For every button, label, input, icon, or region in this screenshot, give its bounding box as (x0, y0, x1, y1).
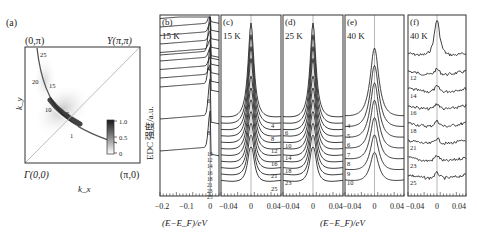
x-tick-label: −0.2 (155, 202, 170, 211)
cut-label-20: 20 (32, 78, 39, 85)
curve-label: 9 (347, 170, 350, 177)
curve-label: 25 (271, 185, 278, 192)
figure: (a) (0,π) Y(π,π) Γ(0,0) (π,0) k_x k_y 25… (0, 0, 477, 238)
curve-label: 5 (347, 132, 350, 139)
panel-f: 12141618212325(f)40 K−0.0400.04 (406, 15, 466, 211)
panel-letter: (d) (285, 17, 296, 27)
y-axis-label-edc: EDC 强度/a.u. (144, 106, 155, 160)
edc-panels: 4681012141618212325(b)15 K−0.2−0.1048121… (155, 15, 466, 211)
temperature-label: 15 K (162, 31, 180, 41)
curve-label: 8 (347, 160, 350, 167)
curve-label: 14 (207, 163, 213, 169)
cut-label-10: 10 (45, 106, 52, 113)
x-tick-label: 0.04 (329, 202, 343, 211)
curve-label: 25 (207, 194, 213, 200)
curve-label: 10 (347, 179, 354, 186)
corner-top-right: Y(π,π) (107, 35, 132, 47)
curve-label: 18 (285, 167, 292, 174)
panel-b: 4681012141618212325(b)15 K−0.2−0.10 (155, 15, 219, 211)
colorbar-tick-0: 0 (119, 150, 122, 157)
x-tick-label: 0.04 (267, 202, 281, 211)
x-tick-label: −0.04 (219, 202, 238, 211)
panel-a: (a) (0,π) Y(π,π) Γ(0,0) (π,0) k_x k_y 25… (6, 17, 140, 194)
panel-letter: (c) (223, 17, 233, 27)
panel-e: 45678910(e)40 K−0.0400.04 (343, 15, 404, 211)
cut-label-5: 5 (66, 110, 69, 117)
curve-label: 16 (271, 160, 278, 167)
x-tick-label: −0.04 (406, 202, 425, 211)
curve-label: 12 (207, 157, 213, 163)
curve-label: 12 (271, 147, 278, 154)
x-tick-label: 0.04 (390, 202, 404, 211)
curve-label: 16 (410, 109, 417, 116)
colorbar-tick-1: 1.0 (119, 118, 127, 125)
x-tick-label: 0 (435, 202, 439, 211)
curve-label: 18 (410, 127, 417, 134)
x-tick-label: −0.1 (179, 202, 194, 211)
cut-label-25: 25 (40, 51, 47, 58)
curve-label: 23 (410, 162, 417, 169)
curve-label: 23 (285, 179, 292, 186)
curve-label: 16 (207, 170, 213, 176)
x-tick-label: 0 (208, 202, 212, 211)
x-tick-label: 0.04 (452, 202, 466, 211)
curve-label: 21 (271, 172, 278, 179)
x-tick-label: 0 (373, 202, 377, 211)
curve-label: 18 (207, 176, 213, 182)
panel-c: 4812162125(c)15 K−0.0400.04 (219, 15, 281, 211)
temperature-label: 25 K (285, 31, 303, 41)
x-tick-label: −0.04 (343, 202, 362, 211)
curve-label: 4 (347, 122, 351, 129)
cut-label-15: 15 (49, 82, 56, 89)
temperature-label: 40 K (410, 31, 428, 41)
colorbar-tick-05: 0.5 (119, 134, 127, 141)
panel-letter: (e) (347, 17, 357, 27)
curve-label: 25 (410, 179, 417, 186)
curve-label: 14 (285, 154, 292, 161)
curve-label: 10 (285, 142, 292, 149)
panel-letter: (b) (162, 17, 173, 27)
curve-label: 21 (207, 182, 213, 188)
x-axis-label-b: (E−E_F)/eV (162, 218, 209, 228)
panel-d: 610141823(d)25 K−0.0400.04 (281, 15, 343, 211)
corner-top-left: (0,π) (25, 35, 44, 47)
curve-label: 8 (271, 135, 274, 142)
curve-label: 14 (410, 92, 417, 99)
curve-label: 23 (207, 188, 213, 194)
temperature-label: 15 K (223, 31, 241, 41)
panel-a-label: (a) (6, 17, 17, 29)
curve-label: 10 (207, 151, 213, 157)
corner-bottom-left: Γ(0,0) (23, 169, 50, 181)
x-tick-label: −0.04 (281, 202, 300, 211)
curve-label: 8 (207, 129, 210, 136)
colorbar (107, 120, 114, 154)
x-tick-label: 0 (311, 202, 315, 211)
corner-bottom-right: (π,0) (120, 169, 139, 181)
cut-label-1: 1 (70, 132, 73, 139)
x-axis-label-kx: k_x (78, 184, 91, 194)
panel-letter: (f) (410, 17, 419, 27)
curve-label: 7 (347, 151, 351, 158)
temperature-label: 40 K (347, 31, 365, 41)
y-axis-label-ky: k_y (14, 98, 24, 111)
curve-label: 12 (410, 74, 417, 81)
curve-label: 21 (410, 144, 417, 151)
x-tick-label: 0 (249, 202, 253, 211)
x-axis-label-cf: (E−E_F)/eV (320, 218, 367, 228)
curve-label: 6 (347, 141, 351, 148)
